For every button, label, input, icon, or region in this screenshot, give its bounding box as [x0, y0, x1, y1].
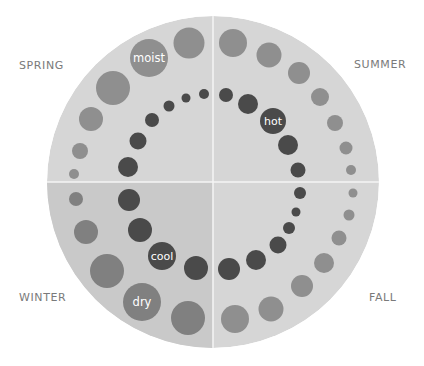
bubble-circle	[182, 94, 191, 103]
bubble-circle	[69, 192, 83, 206]
inner-bubble-summer: hot	[260, 108, 286, 134]
outer-bubble-spring	[69, 169, 79, 179]
bubble-circle	[72, 143, 88, 159]
season-label-fall: FALL	[369, 292, 397, 304]
bubble-circle	[311, 88, 329, 106]
bubble-circle	[69, 169, 79, 179]
outer-bubble-spring	[96, 71, 130, 105]
outer-bubble-winter: dry	[123, 283, 161, 321]
outer-bubble-summer	[219, 29, 247, 57]
inner-bubble-fall	[292, 208, 301, 217]
outer-bubble-fall	[349, 189, 358, 198]
inner-bubble-spring	[118, 157, 138, 177]
bubble-label-hot: hot	[264, 115, 283, 128]
bubble-circle	[238, 94, 258, 114]
bubble-circle	[164, 101, 175, 112]
inner-bubble-spring	[145, 113, 159, 127]
outer-bubble-spring	[72, 143, 88, 159]
bubble-circle	[257, 43, 282, 68]
inner-bubble-spring	[130, 133, 147, 150]
bubble-circle	[145, 113, 159, 127]
bubble-circle	[288, 62, 310, 84]
outer-bubble-fall	[332, 231, 347, 246]
bubble-circle	[294, 187, 306, 199]
inner-bubble-fall	[270, 237, 287, 254]
inner-bubble-fall	[246, 250, 266, 270]
bubble-circle	[79, 107, 103, 131]
season-label-spring: SPRING	[19, 60, 64, 72]
bubble-circle	[90, 254, 124, 288]
inner-bubble-spring	[164, 101, 175, 112]
bubble-circle	[74, 220, 98, 244]
bubble-label-moist: moist	[133, 51, 165, 65]
outer-bubble-spring	[174, 28, 205, 59]
outer-bubble-winter	[69, 192, 83, 206]
season-label-winter: WINTER	[19, 292, 66, 304]
bubble-circle	[278, 135, 298, 155]
bubble-circle	[349, 189, 358, 198]
bubble-circle	[128, 218, 152, 242]
bubble-circle	[327, 115, 343, 131]
bubble-circle	[96, 71, 130, 105]
outer-bubble-fall	[221, 305, 249, 333]
season-label-summer: SUMMER	[354, 59, 406, 71]
outer-bubble-summer	[288, 62, 310, 84]
inner-bubble-fall	[218, 258, 240, 280]
inner-bubble-fall	[283, 222, 295, 234]
bubble-circle	[219, 29, 247, 57]
bubble-circle	[174, 28, 205, 59]
bubble-circle	[340, 142, 353, 155]
outer-bubble-fall	[259, 297, 284, 322]
bubble-label-dry: dry	[133, 295, 152, 309]
bubble-circle	[118, 189, 140, 211]
wheel-canvas: moistdry hotcool	[0, 0, 424, 366]
bubble-circle	[130, 133, 147, 150]
inner-bubble-winter	[128, 218, 152, 242]
outer-bubble-summer	[311, 88, 329, 106]
inner-bubble-summer	[278, 135, 298, 155]
outer-bubble-summer	[257, 43, 282, 68]
bubble-circle	[218, 258, 240, 280]
inner-bubble-winter	[118, 189, 140, 211]
inner-bubble-winter	[184, 256, 208, 280]
inner-bubble-fall	[294, 187, 306, 199]
inner-bubble-winter: cool	[148, 242, 176, 270]
bubble-circle	[292, 208, 301, 217]
bubble-circle	[246, 250, 266, 270]
bubble-circle	[171, 301, 205, 335]
bubble-circle	[270, 237, 287, 254]
outer-bubble-winter	[90, 254, 124, 288]
inner-bubble-summer	[219, 88, 233, 102]
inner-bubble-spring	[182, 94, 191, 103]
inner-bubble-summer	[291, 163, 306, 178]
outer-bubble-summer	[340, 142, 353, 155]
outer-bubble-summer	[327, 115, 343, 131]
bubble-circle	[199, 89, 209, 99]
outer-bubble-spring: moist	[130, 39, 168, 77]
outer-bubble-spring	[79, 107, 103, 131]
bubble-circle	[259, 297, 284, 322]
outer-bubble-summer	[346, 165, 356, 175]
outer-bubble-winter	[74, 220, 98, 244]
outer-bubble-fall	[314, 253, 334, 273]
outer-bubble-fall	[291, 275, 313, 297]
bubble-circle	[219, 88, 233, 102]
bubble-circle	[346, 165, 356, 175]
bubble-label-cool: cool	[151, 250, 174, 263]
bubble-circle	[283, 222, 295, 234]
bubble-circle	[118, 157, 138, 177]
inner-bubble-summer	[238, 94, 258, 114]
bubble-circle	[314, 253, 334, 273]
bubble-circle	[291, 163, 306, 178]
bubble-circle	[184, 256, 208, 280]
outer-bubble-winter	[171, 301, 205, 335]
bubble-circle	[332, 231, 347, 246]
outer-bubble-fall	[344, 210, 355, 221]
bubble-circle	[221, 305, 249, 333]
bubble-circle	[344, 210, 355, 221]
seasonal-wheel-diagram: moistdry hotcool SPRING SUMMER WINTER FA…	[0, 0, 424, 366]
bubble-circle	[291, 275, 313, 297]
inner-bubble-spring	[199, 89, 209, 99]
